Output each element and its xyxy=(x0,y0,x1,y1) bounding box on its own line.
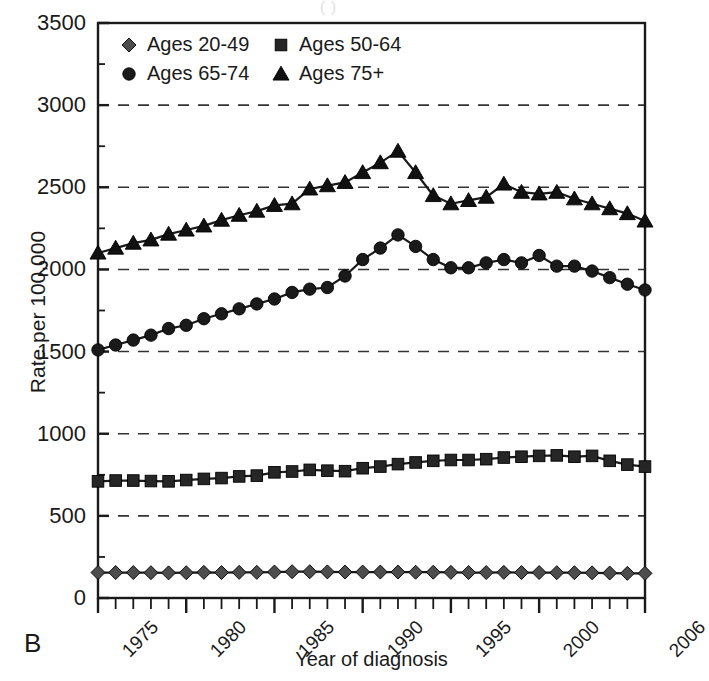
data-point-square xyxy=(375,461,387,473)
data-point-square xyxy=(586,450,598,462)
data-point-circle xyxy=(286,286,298,298)
data-point-square xyxy=(410,457,422,469)
data-point-diamond xyxy=(550,566,564,580)
data-point-square xyxy=(604,455,616,467)
legend-item: Ages 65-74 xyxy=(118,62,270,85)
data-point-square xyxy=(216,472,228,484)
data-point-square xyxy=(445,454,457,466)
data-point-diamond xyxy=(426,565,440,579)
data-point-square xyxy=(533,450,545,462)
data-point-triangle xyxy=(566,191,582,205)
data-point-diamond xyxy=(338,565,352,579)
triangle-marker-icon xyxy=(270,63,292,85)
data-point-square xyxy=(516,451,528,463)
data-point-square xyxy=(357,462,369,474)
data-point-circle xyxy=(374,242,386,254)
legend-item-label: Ages 75+ xyxy=(299,62,384,85)
data-point-square xyxy=(322,465,334,477)
legend-item-label: Ages 65-74 xyxy=(147,62,249,85)
data-point-circle xyxy=(233,303,245,315)
data-point-square xyxy=(269,467,281,479)
data-point-square xyxy=(286,466,298,478)
data-point-diamond xyxy=(409,565,423,579)
data-point-circle xyxy=(109,339,121,351)
data-point-square xyxy=(304,464,316,476)
data-point-circle xyxy=(568,260,580,272)
data-point-circle xyxy=(251,298,263,310)
data-point-diamond xyxy=(585,566,599,580)
y-tick-label: 1500 xyxy=(0,341,86,363)
data-point-circle xyxy=(445,262,457,274)
data-point-diamond xyxy=(215,566,229,580)
panel-label: B xyxy=(24,628,41,659)
data-point-square xyxy=(92,476,104,488)
data-point-diamond xyxy=(567,566,581,580)
plot-frame xyxy=(98,23,645,598)
data-point-circle xyxy=(639,284,651,296)
data-point-circle xyxy=(162,322,174,334)
data-point-circle xyxy=(180,319,192,331)
data-point-circle xyxy=(92,344,104,356)
y-tick-label: 0 xyxy=(0,587,86,609)
data-point-diamond xyxy=(462,566,476,580)
data-point-circle xyxy=(427,253,439,265)
data-point-circle xyxy=(462,262,474,274)
data-point-diamond xyxy=(109,566,123,580)
data-point-triangle xyxy=(496,176,512,190)
data-point-diamond xyxy=(356,565,370,579)
data-point-circle xyxy=(215,308,227,320)
data-point-circle xyxy=(198,313,210,325)
data-point-square xyxy=(339,465,351,477)
data-point-square xyxy=(145,475,157,487)
square-marker-icon xyxy=(270,34,292,56)
chart-legend: Ages 20-49Ages 50-64Ages 65-74Ages 75+ xyxy=(118,33,422,85)
y-tick-label: 3500 xyxy=(0,12,86,34)
scan-bleed-title: ( ) xyxy=(0,0,657,16)
data-point-diamond xyxy=(197,565,211,579)
data-point-diamond xyxy=(603,566,617,580)
legend-item: Ages 50-64 xyxy=(270,33,422,56)
data-point-diamond xyxy=(620,566,634,580)
data-point-diamond xyxy=(391,565,405,579)
data-point-diamond xyxy=(497,565,511,579)
circle-marker-icon xyxy=(118,63,140,85)
data-point-circle xyxy=(604,271,616,283)
data-point-square xyxy=(163,476,175,488)
data-point-square xyxy=(110,475,122,487)
data-point-square xyxy=(127,475,139,487)
data-point-square xyxy=(198,473,210,485)
data-point-square xyxy=(639,461,651,473)
data-point-circle xyxy=(621,278,633,290)
data-point-circle xyxy=(392,229,404,241)
data-point-diamond xyxy=(514,566,528,580)
data-point-square xyxy=(233,471,245,483)
x-tick-label: 2006 xyxy=(665,617,708,660)
data-point-circle xyxy=(268,293,280,305)
series-ages-20-49 xyxy=(91,565,652,581)
y-tick-label: 2000 xyxy=(0,258,86,280)
data-point-square xyxy=(180,474,192,486)
data-point-diamond xyxy=(232,565,246,579)
data-point-circle xyxy=(339,270,351,282)
data-point-triangle xyxy=(372,155,388,169)
data-point-square xyxy=(480,453,492,465)
y-tick-label: 3000 xyxy=(0,94,86,116)
data-point-diamond xyxy=(250,565,264,579)
data-point-square xyxy=(498,452,510,464)
data-point-square xyxy=(392,458,404,470)
y-tick-label: 2500 xyxy=(0,176,86,198)
y-tick-label: 1000 xyxy=(0,423,86,445)
data-point-triangle xyxy=(390,143,406,157)
legend-item: Ages 75+ xyxy=(270,62,422,85)
data-point-square xyxy=(427,455,439,467)
data-point-diamond xyxy=(91,566,105,580)
data-point-circle xyxy=(586,265,598,277)
data-point-diamond xyxy=(144,566,158,580)
series-line xyxy=(98,151,645,253)
data-point-diamond xyxy=(444,565,458,579)
data-point-circle xyxy=(321,281,333,293)
data-point-circle xyxy=(480,257,492,269)
series-ages-65-74 xyxy=(92,229,651,356)
series-line xyxy=(98,235,645,350)
